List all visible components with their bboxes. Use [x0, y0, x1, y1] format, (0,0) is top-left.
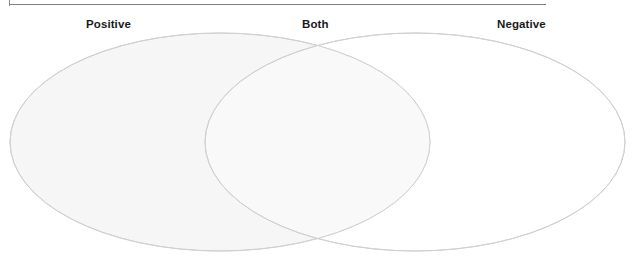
venn-diagram-figure: Positive Both Negative: [0, 0, 644, 256]
venn-label-both: Both: [302, 19, 329, 31]
venn-label-positive: Positive: [86, 19, 131, 31]
venn-label-negative: Negative: [497, 19, 546, 31]
venn-canvas: [0, 0, 644, 256]
